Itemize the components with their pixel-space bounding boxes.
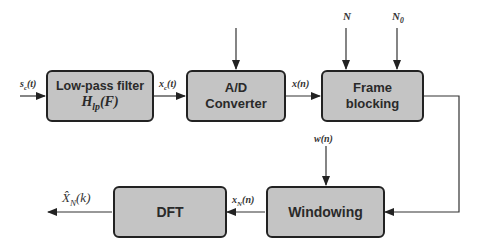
frame-blocking-block: Frame blocking (321, 70, 424, 122)
windowed-signal-label: xN(n) (232, 194, 254, 208)
lowpass-filter-title: Low-pass filter (56, 79, 144, 94)
lowpass-transfer-function: Hlp(F) (81, 94, 118, 113)
frame-blocking-line1: Frame (353, 80, 392, 96)
filtered-signal-label: xc(t) (159, 78, 177, 92)
windowing-label: Windowing (288, 204, 363, 221)
windowing-block: Windowing (266, 186, 385, 238)
input-signal-label: sc(t) (20, 78, 36, 92)
dft-label: DFT (156, 204, 183, 221)
frame-shift-label: N0 (392, 10, 404, 25)
sampled-signal-label: x(n) (292, 78, 309, 89)
frame-length-label: N (343, 10, 351, 22)
connection-lines (0, 0, 477, 252)
ad-converter-line1: A/D (225, 80, 247, 96)
ad-converter-line2: Converter (205, 96, 266, 112)
ad-converter-block: A/D Converter (186, 70, 286, 122)
output-spectrum-label: X̂N(k) (62, 190, 90, 208)
dft-block: DFT (113, 186, 227, 238)
frame-blocking-line2: blocking (346, 96, 399, 112)
lowpass-filter-block: Low-pass filter Hlp(F) (46, 70, 154, 122)
window-function-label: w(n) (314, 133, 333, 144)
